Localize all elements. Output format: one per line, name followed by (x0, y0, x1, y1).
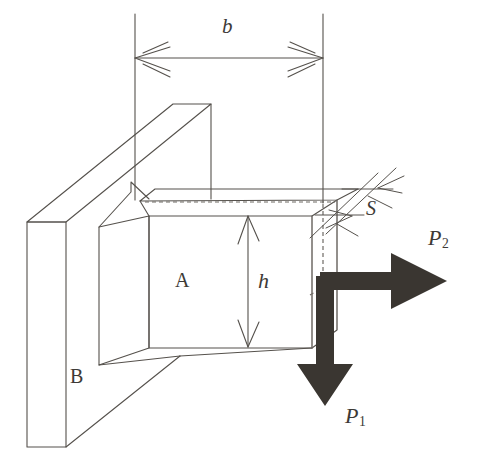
block-left-face (99, 216, 149, 365)
load-label-p1-subscript: 1 (359, 414, 366, 429)
dim-s-arrow-upper (378, 176, 404, 193)
part-label-b: B (70, 366, 83, 386)
dim-b-arrow-left (135, 47, 170, 71)
dimension-label-b: b (222, 16, 233, 37)
diagram-svg (0, 0, 477, 467)
load-label-p1: P1 (345, 405, 366, 429)
load-label-p1-symbol: P (345, 403, 358, 428)
load-arrow-p2 (320, 253, 447, 309)
dim-b-arrow-right (288, 47, 323, 71)
load-arrow-p1 (297, 276, 353, 406)
load-label-p2-symbol: P (428, 225, 441, 250)
dimension-label-s: S (366, 198, 376, 218)
block-top-plate (140, 189, 358, 201)
wall-front-face (27, 222, 66, 447)
load-label-p2-subscript: 2 (442, 236, 449, 251)
dimension-b-group (135, 14, 323, 203)
dimension-h-group (238, 216, 259, 347)
figure-canvas: b h S A B P2 P1 (0, 0, 477, 467)
block-bottom-rear-edge (180, 348, 312, 356)
dimension-s-group (310, 168, 404, 238)
load-label-p2: P2 (428, 227, 449, 251)
dim-s-hatch-b (337, 224, 358, 236)
block-front-face (149, 216, 312, 348)
load-arrows-group (297, 253, 447, 406)
wall-top-face (27, 104, 211, 222)
block-top-plate-front-edge (140, 201, 149, 216)
dimension-label-h: h (258, 270, 269, 292)
part-label-a: A (175, 270, 189, 290)
